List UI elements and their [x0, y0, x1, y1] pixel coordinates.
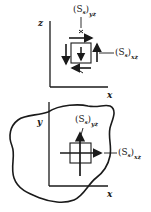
bottom-x-axis-label: x [107, 190, 112, 199]
bottom-y-axis-label: y [37, 118, 42, 127]
diagram-canvas [0, 0, 151, 212]
bottom-top-leader-line [81, 128, 83, 135]
bottom-figure [10, 102, 117, 202]
bottom-figure-label-xz: (Ss)xz [118, 148, 141, 157]
top-z-axis-label: z [38, 19, 43, 28]
top-x-mark [79, 30, 83, 33]
top-figure-label-yz: (Ss)yz [73, 5, 96, 14]
bottom-figure-label-yz: (Ss)yz [75, 115, 98, 124]
top-figure-label-xz: (Ss)xz [115, 48, 138, 57]
bottom-x-mark [80, 71, 83, 73]
top-figure [50, 17, 114, 87]
top-x-axis-label: x [107, 91, 112, 100]
